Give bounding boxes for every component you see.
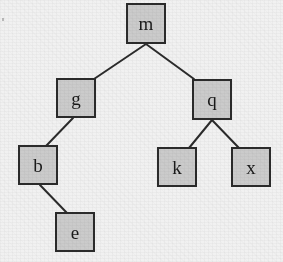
tree-edge-g-b	[46, 118, 73, 146]
tree-node-label: g	[71, 89, 81, 108]
tree-node-g[interactable]: g	[56, 78, 96, 118]
tree-edge-b-e	[40, 185, 67, 213]
scan-speck	[2, 18, 4, 21]
tree-node-label: k	[172, 158, 182, 177]
tree-node-x[interactable]: x	[231, 147, 271, 187]
tree-edge-q-x	[212, 120, 239, 148]
tree-node-e[interactable]: e	[55, 212, 95, 252]
tree-node-k[interactable]: k	[157, 147, 197, 187]
tree-edge-m-g	[94, 44, 146, 79]
tree-edge-q-k	[189, 120, 212, 148]
tree-node-label: q	[207, 90, 217, 109]
tree-node-b[interactable]: b	[18, 145, 58, 185]
tree-diagram-figure: mgqbkxe	[0, 0, 283, 262]
tree-node-label: x	[246, 158, 256, 177]
tree-node-label: b	[33, 156, 43, 175]
tree-node-label: m	[139, 14, 154, 33]
tree-edge-m-q	[146, 44, 194, 79]
tree-node-label: e	[71, 223, 79, 242]
tree-node-q[interactable]: q	[192, 79, 232, 120]
tree-node-m[interactable]: m	[126, 3, 166, 44]
